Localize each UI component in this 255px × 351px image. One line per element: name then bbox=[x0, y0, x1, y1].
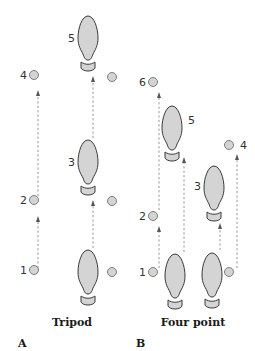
arrow-up-icon bbox=[218, 223, 222, 229]
panel-label-a: A bbox=[17, 337, 27, 350]
arrow-up-icon bbox=[91, 200, 95, 206]
footprint-icon bbox=[78, 250, 98, 305]
crutch-tip-4 bbox=[30, 71, 39, 80]
arrow-up-icon bbox=[36, 216, 40, 222]
panel-label-b: B bbox=[136, 337, 145, 350]
crutch-tip-2 bbox=[30, 196, 39, 205]
step-label-4: 4 bbox=[240, 139, 247, 152]
arrow-up-icon bbox=[157, 226, 161, 232]
step-label-2: 2 bbox=[20, 194, 27, 207]
crutch-tip-1 bbox=[149, 268, 158, 277]
footprint-icon bbox=[165, 254, 185, 309]
step-label-5: 5 bbox=[188, 114, 195, 127]
crutch-tip-6 bbox=[149, 78, 158, 87]
step-label-6: 6 bbox=[139, 76, 146, 89]
step-label-5: 5 bbox=[68, 32, 75, 45]
gait-diagram: 4 2 1 5 3 Tripod A bbox=[0, 0, 255, 351]
footprint-icon bbox=[162, 106, 182, 161]
arrow-up-icon bbox=[157, 92, 161, 98]
step-label-3: 3 bbox=[194, 180, 201, 193]
arrow-up-icon bbox=[235, 154, 239, 160]
step-label-4: 4 bbox=[20, 69, 27, 82]
step-label-1: 1 bbox=[139, 266, 146, 279]
crutch-tip-right-mid bbox=[108, 197, 117, 206]
footprint-icon bbox=[204, 166, 224, 221]
step-label-3: 3 bbox=[68, 156, 75, 169]
caption-tripod: Tripod bbox=[52, 316, 92, 329]
arrow-up-icon bbox=[91, 76, 95, 82]
arrow-up-icon bbox=[36, 90, 40, 96]
crutch-tip-right-top bbox=[108, 73, 117, 82]
step-label-1: 1 bbox=[20, 264, 27, 277]
crutch-tip-right-bottom bbox=[108, 268, 117, 277]
crutch-tip-2 bbox=[149, 212, 158, 221]
footprint-icon bbox=[78, 16, 98, 71]
crutch-tip-4 bbox=[225, 141, 234, 150]
caption-four-point: Four point bbox=[161, 316, 226, 329]
crutch-tip-1 bbox=[30, 266, 39, 275]
panel-four-point: 6 2 1 4 5 3 Four point B bbox=[136, 76, 247, 350]
arrow-up-icon bbox=[182, 157, 186, 163]
panel-tripod: 4 2 1 5 3 Tripod A bbox=[17, 16, 117, 350]
footprint-icon bbox=[78, 140, 98, 195]
crutch-tip-right-start bbox=[225, 268, 234, 277]
footprint-icon bbox=[202, 253, 222, 308]
step-label-2: 2 bbox=[139, 210, 146, 223]
